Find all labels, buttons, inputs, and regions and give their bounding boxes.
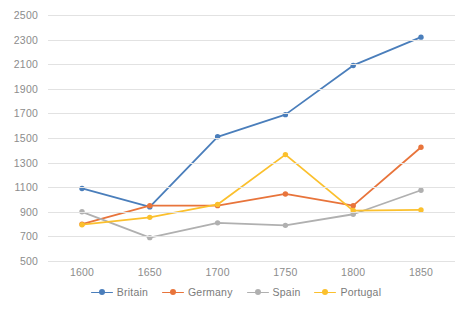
gridline [48, 163, 455, 164]
y-axis-tick-label: 2500 [14, 9, 38, 21]
legend-label: Germany [188, 286, 233, 298]
gridline [48, 15, 455, 16]
legend-swatch-icon [314, 288, 336, 297]
data-point-germany-1750 [283, 191, 288, 196]
data-point-germany-1650 [147, 203, 152, 208]
y-axis-tick-label: 900 [20, 206, 38, 218]
line-chart: 5007009001100130015001700190021002300250… [0, 0, 472, 311]
legend-label: Portugal [340, 286, 381, 298]
data-point-spain-1750 [283, 223, 288, 228]
y-axis-tick-label: 2300 [14, 34, 38, 46]
x-axis-tick-label: 1700 [206, 266, 230, 278]
gridline [48, 187, 455, 188]
x-axis-tick-label: 1650 [138, 266, 162, 278]
data-point-portugal-1750 [283, 152, 288, 157]
gridline [48, 89, 455, 90]
data-point-spain-1850 [418, 188, 423, 193]
data-point-portugal-1650 [147, 215, 152, 220]
gridline [48, 212, 455, 213]
y-axis-tick-label: 500 [20, 255, 38, 267]
gridline [48, 261, 455, 262]
gridline [48, 138, 455, 139]
legend-swatch-icon [91, 288, 113, 297]
x-axis-tick-label: 1750 [273, 266, 297, 278]
legend-item-germany[interactable]: Germany [162, 286, 233, 298]
data-point-germany-1850 [418, 145, 423, 150]
legend-label: Spain [273, 286, 301, 298]
data-point-germany-1800 [351, 203, 356, 208]
chart-legend: BritainGermanySpainPortugal [0, 286, 472, 298]
plot-area [48, 15, 455, 261]
y-axis-tick-label: 700 [20, 230, 38, 242]
data-point-portugal-1700 [215, 202, 220, 207]
legend-item-britain[interactable]: Britain [91, 286, 148, 298]
data-point-portugal-1600 [79, 222, 84, 227]
x-axis-tick-label: 1600 [70, 266, 94, 278]
gridline [48, 40, 455, 41]
x-axis-tick-label: 1850 [409, 266, 433, 278]
legend-swatch-icon [162, 288, 184, 297]
gridline [48, 236, 455, 237]
series-line-britain [82, 37, 421, 207]
x-axis-tick-label: 1800 [341, 266, 365, 278]
gridline [48, 64, 455, 65]
series-line-portugal [82, 155, 421, 225]
legend-item-portugal[interactable]: Portugal [314, 286, 381, 298]
y-axis-tick-label: 2100 [14, 58, 38, 70]
y-axis-tick-label: 1700 [14, 107, 38, 119]
y-axis-tick-label: 1100 [15, 181, 38, 193]
data-point-spain-1700 [215, 220, 220, 225]
y-axis-tick-label: 1300 [14, 157, 38, 169]
series-line-spain [82, 190, 421, 237]
y-axis: 5007009001100130015001700190021002300250… [0, 0, 44, 276]
legend-label: Britain [117, 286, 148, 298]
x-axis: 160016501700175018001850 [48, 266, 455, 284]
y-axis-tick-label: 1900 [14, 83, 38, 95]
gridline [48, 113, 455, 114]
y-axis-tick-label: 1500 [14, 132, 38, 144]
legend-swatch-icon [247, 288, 269, 297]
legend-item-spain[interactable]: Spain [247, 286, 301, 298]
